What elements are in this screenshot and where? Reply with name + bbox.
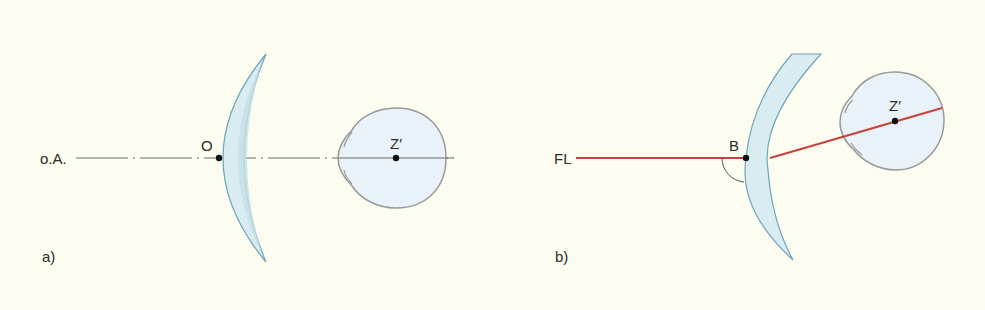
lens-point-label-b: B bbox=[729, 137, 739, 154]
point-b bbox=[743, 155, 749, 161]
panel-a-label: a) bbox=[42, 248, 55, 265]
eye-center-label-a: Z′ bbox=[390, 135, 402, 152]
ray-label: FL bbox=[554, 150, 572, 167]
point-z-prime-a bbox=[393, 155, 399, 161]
axis-label: o.A. bbox=[40, 150, 67, 167]
point-z-prime-b bbox=[892, 118, 898, 124]
eye-center-label-b: Z′ bbox=[889, 97, 901, 114]
lens-point-label-o: O bbox=[201, 137, 213, 154]
diagram: o.A. O Z′ a) FL B Z′ b) bbox=[0, 0, 985, 310]
panel-b-label: b) bbox=[555, 248, 568, 265]
point-o bbox=[216, 155, 222, 161]
